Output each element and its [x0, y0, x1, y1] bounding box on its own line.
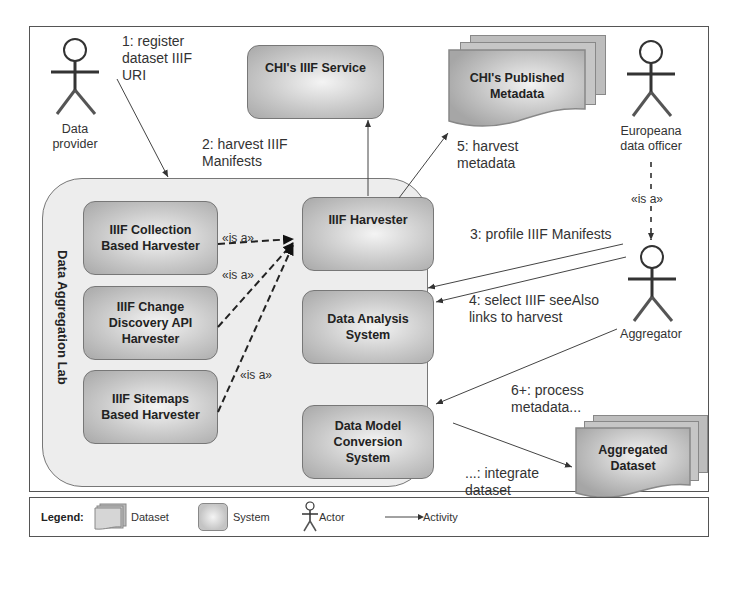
activity-harvest-manifests-label: 2: harvest IIIF Manifests	[202, 136, 288, 170]
chi-iiif-service-label: CHI's IIIF Service	[265, 60, 366, 76]
data-analysis-system-label: Data Analysis System	[327, 311, 409, 344]
activity-integrate-label: ...: integrate dataset	[465, 465, 539, 499]
legend-actor-label: Actor	[319, 511, 345, 523]
activity-profile-label: 3: profile IIIF Manifests	[470, 226, 612, 243]
isa-label-change-discovery: «is a»	[222, 268, 254, 282]
europeana-officer-actor-icon	[621, 40, 681, 120]
legend-system-icon	[198, 503, 228, 531]
activity-process-metadata-label: 6+: process metadata...	[511, 382, 584, 416]
sitemaps-harvester-box: IIIF Sitemaps Based Harvester	[83, 370, 218, 444]
lab-title: Data Aggregation Lab	[50, 250, 70, 430]
collection-harvester-label: IIIF Collection Based Harvester	[101, 222, 200, 255]
activity-register-label: 1: register dataset IIIF URI	[122, 33, 192, 83]
legend-actor-icon	[300, 501, 320, 533]
data-provider-label: Data provider	[40, 122, 110, 152]
chi-iiif-service-box: CHI's IIIF Service	[247, 45, 384, 119]
data-provider-actor-icon	[45, 38, 105, 118]
iiif-harvester-label: IIIF Harvester	[328, 212, 407, 228]
chi-published-metadata-label: CHI's Published Metadata	[448, 63, 586, 109]
legend-title: Legend:	[41, 511, 84, 523]
isa-label-sitemaps: «is a»	[240, 368, 272, 382]
aggregated-dataset: Aggregated Dataset	[575, 415, 710, 495]
data-model-conversion-box: Data Model Conversion System	[302, 405, 434, 479]
data-analysis-system-box: Data Analysis System	[302, 290, 434, 364]
sitemaps-harvester-label: IIIF Sitemaps Based Harvester	[101, 391, 200, 424]
legend-dataset-label: Dataset	[131, 511, 169, 523]
change-discovery-harvester-label: IIIF Change Discovery API Harvester	[109, 299, 193, 348]
change-discovery-harvester-box: IIIF Change Discovery API Harvester	[83, 286, 218, 360]
legend-dataset-icon	[94, 503, 128, 531]
collection-harvester-box: IIIF Collection Based Harvester	[83, 201, 218, 275]
aggregator-label: Aggregator	[606, 327, 696, 342]
chi-published-metadata-dataset: CHI's Published Metadata	[448, 35, 608, 130]
aggregated-dataset-label: Aggregated Dataset	[575, 435, 691, 481]
activity-select-seealso-label: 4: select IIIF seeAlso links to harvest	[469, 292, 599, 326]
isa-label-officer: «is a»	[629, 192, 665, 206]
aggregator-actor-icon	[622, 245, 682, 325]
data-model-conversion-label: Data Model Conversion System	[334, 418, 403, 467]
activity-harvest-metadata-label: 5: harvest metadata	[457, 138, 518, 172]
legend-activity-arrow-icon	[385, 512, 425, 522]
iiif-harvester-box: IIIF Harvester	[302, 197, 434, 271]
legend-activity-label: Activity	[423, 511, 458, 523]
isa-label-collection: «is a»	[222, 231, 254, 245]
europeana-officer-label: Europeana data officer	[601, 124, 701, 154]
legend-system-label: System	[233, 511, 270, 523]
